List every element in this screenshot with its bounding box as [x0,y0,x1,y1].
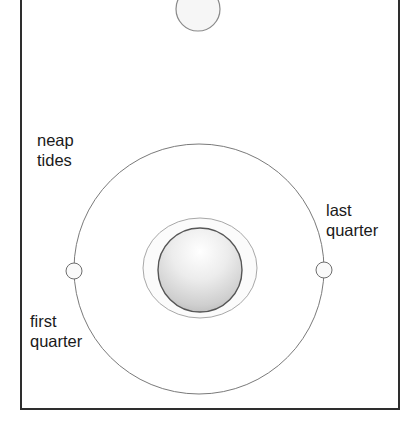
neap-tides-label-line2: tides [37,150,74,170]
moon-first-quarter-icon [66,263,82,279]
neap-tides-label: neap tides [37,130,74,170]
last-quarter-label: last quarter [326,200,378,240]
last-quarter-label-line1: last [326,200,378,220]
earth-icon [158,228,242,312]
neap-tides-label-line1: neap [37,130,74,150]
first-quarter-label-line1: first [30,311,82,331]
moon-last-quarter-icon [316,262,332,278]
first-quarter-label: first quarter [30,311,82,351]
sun-icon [176,0,220,31]
first-quarter-label-line2: quarter [30,331,82,351]
last-quarter-label-line2: quarter [326,220,378,240]
